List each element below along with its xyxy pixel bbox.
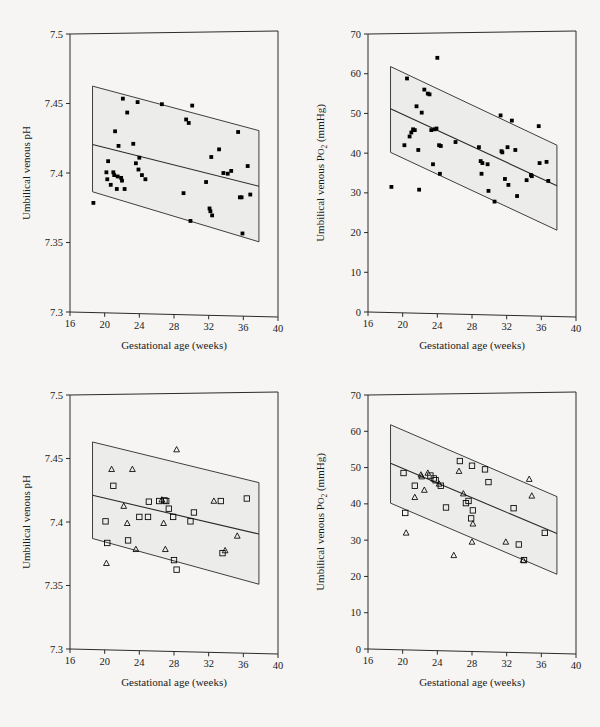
y-tick-label: 40 [351,148,362,159]
data-point-filled-square [408,135,412,139]
x-axis-title: Gestational age (weeks) [419,676,525,689]
x-tick-label: 32 [501,658,512,669]
data-point-filled-square [241,232,245,236]
data-point-filled-square [530,174,534,178]
data-point-filled-square [513,148,517,152]
x-tick-label: 40 [571,660,582,671]
data-point-filled-square [187,121,191,125]
data-point-filled-square [415,104,419,108]
y-tick-label: 7.3 [50,307,63,318]
data-point-filled-square [422,88,426,92]
scatter-panel-top-left: 7.37.357.47.457.516202428323640Gestation… [0,0,300,372]
y-tick-label: 40 [351,498,362,509]
y-tick-label: 0 [356,644,361,655]
data-point-filled-square [217,147,221,151]
x-tick-label: 20 [397,319,408,330]
data-point-filled-square [487,189,491,193]
x-tick-label: 16 [65,655,76,666]
x-tick-label: 24 [134,320,145,331]
x-tick-label: 24 [432,320,443,331]
data-point-open-triangle [451,552,457,557]
data-point-open-triangle [526,476,532,481]
data-point-filled-square [438,172,442,176]
data-point-filled-square [417,188,421,192]
data-point-filled-square [500,150,504,154]
data-point-filled-square [545,160,549,164]
data-point-filled-square [246,164,250,168]
data-point-filled-square [140,173,144,177]
y-tick-label: 60 [351,426,362,437]
y-tick-label: 7.5 [50,390,63,401]
data-point-filled-square [403,143,407,147]
data-point-filled-square [229,169,233,173]
data-point-filled-square [477,145,481,149]
data-point-filled-square [92,201,96,205]
data-point-filled-square [515,194,519,198]
y-tick-label: 7.4 [50,517,64,528]
data-point-open-triangle [469,539,475,544]
x-tick-label: 36 [238,659,249,670]
data-point-filled-square [538,161,542,165]
data-point-filled-square [117,144,121,148]
data-point-filled-square [390,185,394,189]
x-tick-label: 32 [203,658,214,669]
data-point-filled-square [137,156,141,160]
data-point-filled-square [105,177,109,181]
y-tick-label: 20 [351,227,362,238]
x-tick-label: 16 [65,318,76,329]
x-tick-label: 32 [501,321,512,332]
y-tick-label: 30 [351,535,362,546]
x-tick-label: 20 [99,656,110,667]
data-point-filled-square [428,92,432,96]
data-point-filled-square [210,213,214,217]
data-point-filled-square [222,171,226,175]
x-tick-label: 28 [169,321,180,332]
x-tick-label: 24 [432,657,443,668]
data-point-filled-square [136,100,140,104]
data-point-filled-square [405,77,409,81]
data-point-filled-square [431,162,435,166]
data-point-filled-square [499,114,503,118]
data-point-filled-square [105,170,109,174]
scatter-panel-top-right: 01020304050607016202428323640Gestational… [300,0,600,372]
data-point-filled-square [112,173,116,177]
y-tick-label: 7.35 [45,237,63,248]
data-point-filled-square [240,195,244,199]
x-tick-label: 20 [397,656,408,667]
data-point-filled-square [537,124,541,128]
y-tick-label: 7.4 [50,168,64,179]
data-point-open-triangle [403,530,409,535]
data-point-filled-square [503,177,507,181]
data-point-filled-square [429,128,433,132]
data-point-filled-square [134,161,138,165]
data-point-filled-square [435,56,439,60]
x-tick-label: 40 [273,660,284,671]
data-point-filled-square [189,219,193,223]
data-point-filled-square [106,159,110,163]
y-tick-label: 10 [351,267,362,278]
data-point-filled-square [493,200,497,204]
data-point-open-triangle [174,447,180,452]
data-point-filled-square [507,183,511,187]
data-point-filled-square [123,187,127,191]
data-point-filled-square [226,172,230,176]
data-point-filled-square [480,172,484,176]
data-point-filled-square [121,97,125,101]
x-tick-label: 36 [238,322,249,333]
x-tick-label: 28 [467,658,478,669]
data-point-filled-square [506,145,510,149]
x-tick-label: 40 [273,323,284,334]
data-point-filled-square [125,111,129,115]
x-tick-label: 40 [571,323,582,334]
data-point-filled-square [182,191,186,195]
y-tick-label: 10 [351,607,362,618]
data-point-filled-square [209,155,213,159]
data-point-open-square [174,567,179,572]
y-tick-label: 70 [351,390,362,401]
data-point-filled-square [416,148,420,152]
y-tick-label: 50 [351,462,362,473]
prediction-band [93,86,259,242]
scatter-panel-bottom-left: 7.37.357.47.457.516202428323640Gestation… [0,372,300,727]
y-tick-label: 70 [351,29,362,40]
data-point-filled-square [413,128,417,132]
